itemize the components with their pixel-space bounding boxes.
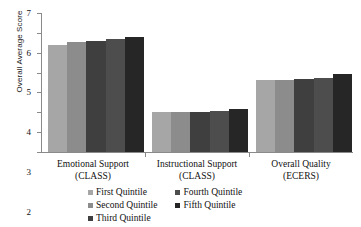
bar	[152, 112, 172, 152]
bar-group	[152, 13, 248, 152]
y-tick-mark: 4	[37, 73, 41, 74]
bar	[106, 39, 126, 152]
bar	[333, 74, 353, 152]
y-tick-label: 4	[27, 127, 32, 137]
category-label-line-1: Emotional Support	[41, 158, 145, 170]
legend-swatch-icon	[175, 203, 180, 208]
bar	[275, 80, 295, 152]
bar	[294, 79, 314, 152]
legend-label: Fourth Quintile	[183, 187, 242, 197]
legend-item[interactable]: Fourth Quintile	[175, 186, 242, 198]
legend-column-two: Fourth QuintileFifth Quintile	[175, 186, 242, 224]
legend-swatch-icon	[175, 190, 180, 195]
y-tick-mark: 6	[37, 33, 41, 34]
bar	[229, 109, 249, 152]
legend-swatch-icon	[88, 203, 93, 208]
bar-group	[256, 13, 352, 152]
legend-label: First Quintile	[96, 187, 147, 197]
y-tick-label: 7	[27, 8, 32, 18]
x-tick-mark	[249, 153, 250, 157]
y-tick-mark: 1	[37, 132, 41, 133]
bar	[86, 41, 106, 152]
x-category-label: Emotional Support(CLASS)	[41, 158, 145, 182]
legend-column-one: First QuintileSecond QuintileThird Quint…	[88, 186, 157, 224]
bar	[171, 112, 191, 152]
y-tick-label: 2	[27, 207, 32, 217]
legend-item[interactable]: First Quintile	[88, 186, 157, 198]
bar-chart: Overall Average Score 01234567 Emotional…	[0, 0, 361, 227]
y-tick-mark: 7	[37, 13, 41, 14]
y-axis-title: Overall Average Score	[15, 0, 24, 112]
legend-item[interactable]: Second Quintile	[88, 199, 157, 211]
category-label-line-2: (CLASS)	[145, 170, 249, 182]
y-tick-label: 6	[27, 48, 32, 58]
plot-area: 01234567	[41, 13, 353, 153]
y-tick-mark: 5	[37, 53, 41, 54]
legend-item[interactable]: Third Quintile	[88, 212, 157, 224]
category-label-line-2: (ECERS)	[249, 170, 353, 182]
bar-group	[48, 13, 144, 152]
x-category-label: Instructional Support(CLASS)	[145, 158, 249, 182]
legend-label: Third Quintile	[96, 213, 151, 223]
chart-legend: First QuintileSecond QuintileThird Quint…	[88, 186, 242, 224]
y-tick-mark: 0	[37, 152, 41, 153]
bar	[256, 80, 276, 152]
bar	[210, 111, 230, 152]
bar	[190, 112, 210, 152]
x-tick-mark	[145, 153, 146, 157]
legend-swatch-icon	[88, 190, 93, 195]
legend-label: Fifth Quintile	[183, 200, 235, 210]
legend-item[interactable]: Fifth Quintile	[175, 199, 242, 211]
bar	[48, 45, 68, 152]
x-axis-line	[41, 152, 353, 153]
bar	[67, 42, 87, 152]
bar	[125, 37, 145, 152]
category-label-line-1: Instructional Support	[145, 158, 249, 170]
y-tick-label: 3	[27, 167, 32, 177]
y-tick-mark: 2	[37, 112, 41, 113]
y-axis-line	[41, 13, 42, 153]
x-category-label: Overall Quality(ECERS)	[249, 158, 353, 182]
category-label-line-2: (CLASS)	[41, 170, 145, 182]
legend-label: Second Quintile	[96, 200, 157, 210]
category-label-line-1: Overall Quality	[249, 158, 353, 170]
y-tick-label: 5	[27, 87, 32, 97]
bar	[314, 78, 334, 152]
legend-swatch-icon	[88, 216, 93, 221]
y-tick-mark: 3	[37, 92, 41, 93]
